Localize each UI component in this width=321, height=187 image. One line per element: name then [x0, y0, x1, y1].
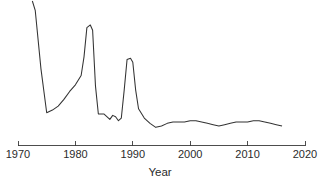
line-chart: 197019801990200020102020 Year — [0, 0, 321, 187]
x-axis-tick-label: 1980 — [63, 148, 87, 160]
chart-canvas: 197019801990200020102020 Year — [0, 0, 321, 187]
x-axis-tick-label: 2010 — [235, 148, 259, 160]
plot-area — [32, 1, 282, 127]
x-axis-tick-labels: 197019801990200020102020 — [6, 148, 317, 160]
x-axis-tick-marks — [18, 141, 305, 146]
data-series-line — [32, 1, 282, 127]
x-axis: 197019801990200020102020 Year — [6, 141, 317, 179]
x-axis-tick-label: 1970 — [6, 148, 30, 160]
x-axis-tick-label: 1990 — [121, 148, 145, 160]
x-axis-title: Year — [148, 166, 171, 178]
x-axis-tick-label: 2020 — [293, 148, 317, 160]
x-axis-tick-label: 2000 — [178, 148, 202, 160]
